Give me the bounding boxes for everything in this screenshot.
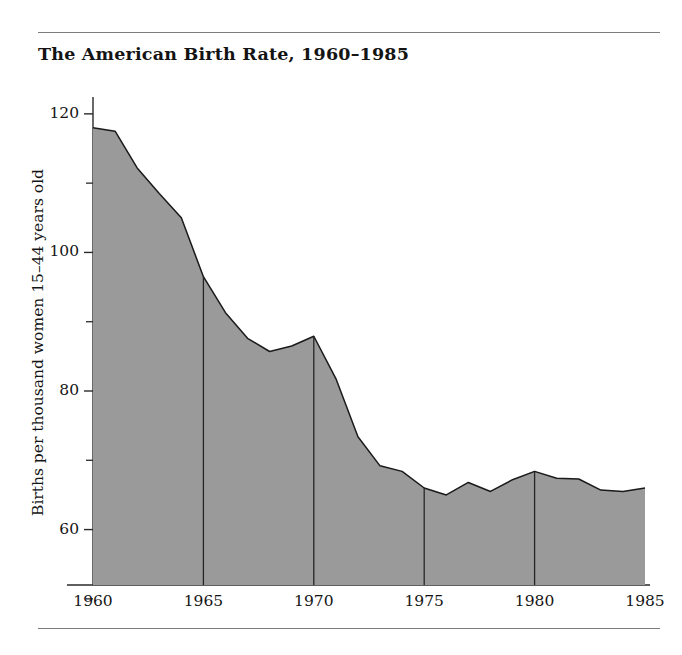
x-tick-label-1960: 1960 [63, 592, 123, 610]
y-axis-label: Births per thousand women 15–44 years ol… [29, 169, 47, 516]
y-tick-label-60: 60 [35, 520, 79, 538]
area-fill [93, 128, 645, 585]
figure-container: The American Birth Rate, 1960–1985 Birth… [0, 0, 682, 655]
x-tick-label-1985: 1985 [615, 592, 675, 610]
x-tick-label-1970: 1970 [284, 592, 344, 610]
y-tick-label-120: 120 [35, 104, 79, 122]
birth-rate-area-chart [0, 0, 682, 655]
x-tick-label-1965: 1965 [173, 592, 233, 610]
y-tick-label-100: 100 [35, 242, 79, 260]
x-tick-label-1975: 1975 [394, 592, 454, 610]
y-tick-label-80: 80 [35, 381, 79, 399]
series-group [93, 128, 645, 585]
figure-bottom-rule [38, 628, 660, 629]
chart-plot-area: Births per thousand women 15–44 years ol… [0, 0, 682, 655]
x-tick-label-1980: 1980 [505, 592, 565, 610]
